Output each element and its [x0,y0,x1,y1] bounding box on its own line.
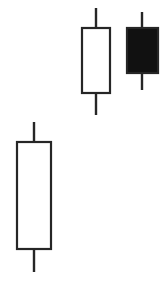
candlestick-chart [0,0,166,292]
candle-left-bullish [17,122,51,272]
candle-body [17,142,51,249]
candle-right-bearish [127,12,158,90]
candle-body [127,28,158,73]
candle-body [82,28,110,93]
candle-middle-bullish [82,8,110,115]
candlestick-canvas [0,0,166,292]
